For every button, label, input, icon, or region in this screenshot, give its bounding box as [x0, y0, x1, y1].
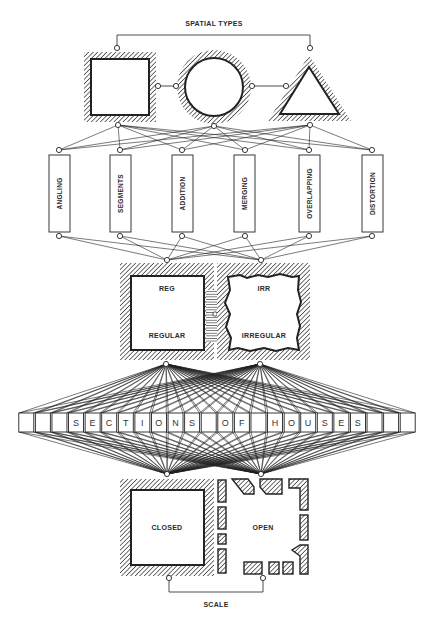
node-square-right — [155, 83, 160, 88]
operation-label: ADDITION — [179, 177, 186, 211]
connection-node — [306, 233, 311, 238]
irregular-block: IRR IRREGULAR — [217, 263, 310, 360]
edge — [167, 236, 309, 260]
open-block: OPEN — [218, 479, 308, 574]
connection-node — [257, 361, 262, 366]
operation-box-distortion: DISTORTION — [362, 155, 383, 232]
irregular-label: IRREGULAR — [242, 332, 286, 339]
operation-boxes: ANGLING SEGMENTS ADDITION MERGING OVERLA… — [49, 155, 383, 232]
edge — [59, 126, 214, 150]
section-cell-letter: N — [172, 418, 179, 428]
edge — [245, 236, 261, 260]
connection-node — [242, 233, 247, 238]
section-cell: N — [168, 413, 183, 432]
irregular-abbr: IRR — [258, 285, 271, 292]
section-cell-letter: F — [239, 418, 245, 428]
section-cell-letter: S — [73, 418, 79, 428]
section-cell: S — [317, 413, 332, 432]
edge — [167, 432, 415, 474]
section-cell — [367, 413, 382, 432]
section-cell-letter: C — [106, 418, 113, 428]
edge — [19, 432, 167, 474]
connection-node — [258, 471, 263, 476]
bottom-bracket — [169, 581, 263, 592]
section-cell-letter: S — [189, 418, 195, 428]
connection-node — [117, 147, 122, 152]
connection-node — [211, 123, 216, 128]
section-cell: E — [334, 413, 349, 432]
section-cell: F — [234, 413, 249, 432]
edge — [310, 125, 372, 150]
node-triangle-top — [307, 45, 312, 50]
section-cell-letter: U — [305, 418, 312, 428]
section-cell: S — [185, 413, 200, 432]
section-cell: O — [218, 413, 233, 432]
connection-node — [306, 147, 311, 152]
connection-node — [115, 122, 120, 127]
section-cell-letter: E — [89, 418, 95, 428]
edge — [167, 236, 372, 260]
node-closed-bottom — [166, 575, 171, 580]
connection-node — [163, 361, 168, 366]
edge — [245, 125, 310, 150]
section-cell: E — [85, 413, 100, 432]
section-cell: S — [350, 413, 365, 432]
section-cell-letter: I — [141, 418, 144, 428]
section-cell — [19, 413, 34, 432]
operation-label: ANGLING — [56, 177, 63, 209]
edge — [59, 236, 167, 260]
node-open-bottom — [260, 575, 265, 580]
section-cell-letter: T — [123, 418, 129, 428]
node-square-top — [114, 45, 119, 50]
edge — [167, 236, 182, 260]
edges-shapes-to-operations — [59, 125, 372, 150]
section-cell: O — [284, 413, 299, 432]
connection-node — [56, 233, 61, 238]
connection-node — [164, 257, 169, 262]
connection-node — [258, 257, 263, 262]
section-cell — [35, 413, 50, 432]
section-cell — [384, 413, 399, 432]
connection-node — [369, 233, 374, 238]
operation-label: MERGING — [241, 177, 248, 210]
title-spatial-types: SPATIAL TYPES — [185, 20, 243, 27]
node-triangle-left — [283, 83, 288, 88]
section-cell: U — [301, 413, 316, 432]
edge — [120, 236, 261, 260]
edge — [166, 364, 384, 413]
section-cell — [400, 413, 415, 432]
section-cell-letter: O — [155, 418, 162, 428]
operation-label: OVERLAPPING — [306, 168, 313, 219]
connection-node — [307, 122, 312, 127]
regular-label: REGULAR — [149, 332, 186, 339]
operation-box-overlapping: OVERLAPPING — [299, 155, 320, 232]
edge — [166, 364, 415, 413]
edges-operations-to-regularity — [59, 236, 372, 260]
operation-label: DISTORTION — [369, 172, 376, 215]
section-cell-letter: S — [355, 418, 361, 428]
closed-block: CLOSED — [120, 479, 214, 576]
edge — [59, 125, 118, 150]
connection-node — [117, 233, 122, 238]
section-cell: S — [69, 413, 84, 432]
operation-label: SEGMENTS — [117, 174, 124, 213]
regular-block: REG REGULAR — [120, 263, 214, 360]
edge — [214, 126, 372, 150]
connection-node — [179, 233, 184, 238]
edge — [309, 125, 310, 150]
edge — [166, 364, 185, 413]
section-cell-letter: E — [338, 418, 344, 428]
section-cell: I — [135, 413, 150, 432]
section-cell-letter: H — [272, 418, 279, 428]
connection-node — [179, 147, 184, 152]
section-cell-letter: S — [322, 418, 328, 428]
spatial-types-diagram: SPATIAL TYPES ANGLING SEGMENTS — [0, 0, 431, 625]
section-cell: H — [268, 413, 283, 432]
connection-node — [242, 147, 247, 152]
operation-box-merging: MERGING — [234, 155, 255, 232]
regular-abbr: REG — [159, 285, 175, 292]
connection-node — [56, 147, 61, 152]
edge — [167, 236, 245, 260]
node-circle-right — [249, 83, 254, 88]
section-cell — [201, 413, 216, 432]
